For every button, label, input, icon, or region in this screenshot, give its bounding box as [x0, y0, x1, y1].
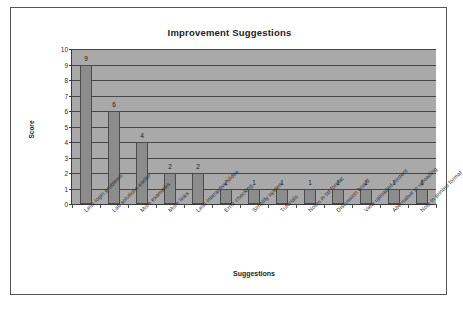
y-tick-label: 0 [64, 201, 68, 208]
x-tick-mark [436, 204, 437, 208]
y-tick-mark [69, 80, 72, 81]
bar-value-label: 9 [84, 55, 88, 62]
y-tick-mark [69, 142, 72, 143]
chart-frame: Improvement Suggestions Score 0123456789… [10, 7, 447, 295]
gridline [72, 111, 436, 112]
chart-title: Improvement Suggestions [11, 27, 448, 38]
y-tick-mark [69, 189, 72, 190]
bar-value-label: 1 [252, 179, 256, 186]
bar[interactable] [80, 65, 93, 205]
y-tick-label: 8 [64, 77, 68, 84]
bar-value-label: 6 [112, 101, 116, 108]
y-tick-label: 5 [64, 123, 68, 130]
bar-value-label: 2 [196, 163, 200, 170]
gridline [72, 127, 436, 128]
y-tick-mark [69, 173, 72, 174]
y-tick-label: 2 [64, 170, 68, 177]
y-tick-label: 7 [64, 92, 68, 99]
y-axis-label: Score [28, 100, 35, 160]
y-tick-label: 3 [64, 154, 68, 161]
y-tick-label: 4 [64, 139, 68, 146]
y-tick-mark [69, 65, 72, 66]
gridline [72, 173, 436, 174]
gridline [72, 96, 436, 97]
y-tick-mark [69, 158, 72, 159]
y-tick-label: 9 [64, 61, 68, 68]
y-tick-label: 1 [64, 185, 68, 192]
y-tick-label: 10 [61, 46, 68, 53]
gridline [72, 142, 436, 143]
bar-value-label: 4 [140, 132, 144, 139]
y-tick-mark [69, 127, 72, 128]
y-tick-label: 6 [64, 108, 68, 115]
bar[interactable] [192, 173, 205, 204]
plot-area: 0123456789109642211111111 [71, 49, 436, 205]
x-axis-tick-labels: Less login problemsLab solutions earlier… [71, 206, 435, 268]
gridline [72, 158, 436, 159]
y-tick-mark [69, 111, 72, 112]
y-tick-mark [69, 96, 72, 97]
gridline [72, 65, 436, 66]
bar-value-label: 1 [308, 179, 312, 186]
gridline [72, 80, 436, 81]
y-tick-mark [69, 49, 72, 50]
gridline [72, 49, 436, 50]
bar-value-label: 2 [168, 163, 172, 170]
x-axis-label: Suggestions [69, 270, 439, 277]
